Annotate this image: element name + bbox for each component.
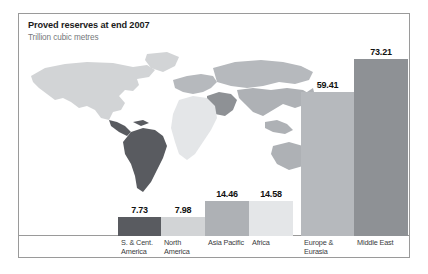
- category-label-line: Eurasia: [304, 248, 354, 257]
- category-label: Middle East: [357, 239, 408, 248]
- category-label-line: America: [121, 248, 161, 257]
- category-label: NorthAmerica: [164, 239, 205, 256]
- bar-s-cent-america: [118, 217, 161, 236]
- category-label: Africa: [252, 239, 293, 248]
- category-label-line: Asia Pacific: [208, 239, 249, 248]
- category-label: Europe &Eurasia: [304, 239, 354, 256]
- bar-africa: [249, 201, 293, 236]
- bar-middle-east: [354, 59, 408, 236]
- category-label-line: Africa: [252, 239, 293, 248]
- bar-value-label: 59.41: [301, 80, 354, 90]
- bar-chart-plot: 7.73S. & Cent.America7.98NorthAmerica14.…: [19, 14, 409, 257]
- category-label: Asia Pacific: [208, 239, 249, 248]
- bar-north-america: [161, 217, 205, 236]
- bar-value-label: 73.21: [354, 47, 408, 57]
- category-label: S. & Cent.America: [121, 239, 161, 256]
- category-label-line: Middle East: [357, 239, 408, 248]
- bar-asia-pacific: [205, 201, 249, 236]
- bar-value-label: 14.46: [205, 189, 249, 199]
- bar-europe-eurasia: [301, 92, 354, 236]
- bar-value-label: 7.73: [118, 205, 161, 215]
- bar-value-label: 7.98: [161, 205, 205, 215]
- category-label-line: America: [164, 248, 205, 257]
- bar-value-label: 14.58: [249, 189, 293, 199]
- chart-figure: Proved reserves at end 2007 Trillion cub…: [18, 13, 410, 258]
